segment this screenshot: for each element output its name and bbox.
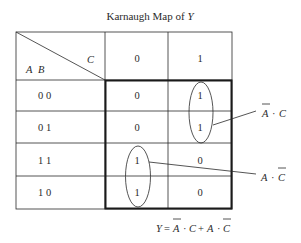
svg-text:C: C <box>278 172 286 183</box>
value-region-border <box>106 81 232 209</box>
cell-01-1: 1 <box>197 122 202 133</box>
cell-00-1: 1 <box>197 90 202 101</box>
leader-line-notA-C <box>213 111 256 125</box>
group-label-A-notC: A · C <box>260 168 286 183</box>
svg-text:+: + <box>198 223 204 234</box>
cell-11-0: 1 <box>134 155 139 166</box>
row-var-b: B <box>38 64 45 75</box>
row-var-a: A <box>25 64 33 75</box>
svg-text:·: · <box>217 223 221 234</box>
cell-01-0: 0 <box>134 122 139 133</box>
svg-text:=: = <box>164 223 170 234</box>
map-title: Karnaugh Map of Y <box>106 10 195 22</box>
cell-11-1: 0 <box>197 155 202 166</box>
col-header-0: 0 <box>134 53 139 64</box>
row-label-10: 1 0 <box>38 187 51 198</box>
svg-text:A: A <box>172 223 180 234</box>
svg-text:·: · <box>183 223 187 234</box>
cell-10-1: 0 <box>197 187 202 198</box>
group-label-notA-C: A · C <box>261 104 287 119</box>
svg-text:C: C <box>223 223 231 234</box>
row-label-01: 0 1 <box>38 122 51 133</box>
cell-00-0: 0 <box>134 90 139 101</box>
row-label-11: 1 1 <box>38 155 51 166</box>
row-label-00: 0 0 <box>38 90 51 101</box>
svg-text:A: A <box>261 108 269 119</box>
svg-text:Y: Y <box>156 223 163 234</box>
svg-text:A: A <box>206 223 214 234</box>
equation: Y = A · C + A · C <box>156 219 231 234</box>
svg-text:C: C <box>189 223 197 234</box>
svg-text:·: · <box>272 108 276 119</box>
col-header-1: 1 <box>197 53 202 64</box>
svg-text:·: · <box>271 172 275 183</box>
cell-10-0: 1 <box>134 187 139 198</box>
svg-text:A: A <box>260 172 268 183</box>
karnaugh-map-diagram: Karnaugh Map of Y A B C 0 1 0 0 0 1 1 1 … <box>0 0 301 243</box>
svg-text:C: C <box>279 108 287 119</box>
col-var-c: C <box>87 54 95 65</box>
